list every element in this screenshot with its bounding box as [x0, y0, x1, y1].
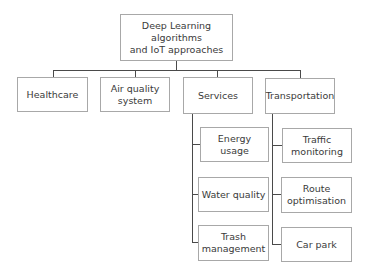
traffic-label-line1: Traffic: [303, 134, 332, 146]
trash-label-line1: Trash: [221, 231, 246, 243]
services-drop-connector: [217, 70, 218, 77]
air-quality-label-line2: system: [118, 95, 152, 107]
services-node: Services: [183, 77, 253, 114]
route-label-line1: Route: [303, 183, 331, 195]
route-branch-connector: [272, 194, 281, 195]
root-label-line1: Deep Learning algorithms: [123, 20, 230, 44]
transportation-label: Transportation: [266, 90, 335, 102]
root-label-line2: and IoT approaches: [130, 44, 224, 56]
category-bus-connector: [53, 70, 301, 71]
energy-usage-label: Energy usage: [203, 133, 266, 157]
healthcare-node: Healthcare: [17, 77, 88, 112]
trash-label-line2: management: [202, 243, 266, 255]
traffic-branch-connector: [272, 145, 282, 146]
traffic-label-line2: monitoring: [291, 146, 343, 158]
root-node: Deep Learning algorithms and IoT approac…: [120, 14, 233, 61]
traffic-monitoring-node: Traffic monitoring: [282, 128, 352, 163]
air-quality-drop-connector: [135, 70, 136, 77]
carpark-branch-connector: [272, 244, 281, 245]
car-park-label: Car park: [296, 239, 337, 251]
services-label: Services: [198, 90, 238, 102]
trash-management-node: Trash management: [198, 225, 269, 261]
air-quality-label-line1: Air quality: [111, 83, 160, 95]
transportation-trunk-connector: [272, 113, 273, 244]
transportation-drop-connector: [300, 70, 301, 78]
water-quality-node: Water quality: [198, 177, 269, 212]
energy-usage-node: Energy usage: [200, 127, 269, 162]
car-park-node: Car park: [281, 227, 352, 262]
services-trunk-connector: [192, 113, 193, 243]
healthcare-drop-connector: [53, 70, 54, 77]
energy-branch-connector: [192, 144, 200, 145]
healthcare-label: Healthcare: [27, 89, 79, 101]
route-label-line2: optimisation: [287, 195, 346, 207]
route-optimisation-node: Route optimisation: [281, 177, 352, 213]
transportation-node: Transportation: [265, 78, 335, 114]
water-quality-label: Water quality: [202, 189, 266, 201]
air-quality-node: Air quality system: [100, 77, 170, 112]
root-stem-connector: [176, 60, 177, 70]
